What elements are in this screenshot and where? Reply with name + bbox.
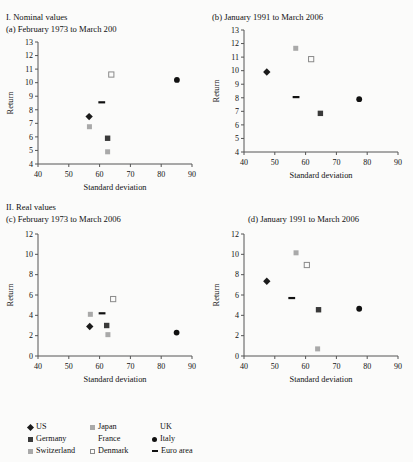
legend-label: Japan [98, 422, 117, 432]
x-tick-label: 90 [188, 362, 196, 371]
section-heading-nominal: I. Nominal values [6, 12, 67, 22]
plot-canvas-d: 024681012405060708090Standard deviationR… [210, 226, 406, 386]
y-tick-label: 6 [235, 121, 239, 130]
x-tick-label: 60 [96, 170, 104, 179]
data-point-italy [356, 96, 362, 102]
data-point-germany [316, 307, 321, 312]
x-tick-label: 90 [188, 170, 196, 179]
legend-marker-square-light-icon [90, 425, 95, 430]
data-point-us [86, 323, 93, 330]
panel-title-d: (d) January 1991 to March 2006 [248, 214, 359, 224]
y-tick-label: 6 [29, 291, 33, 300]
legend-label: UK [160, 422, 172, 432]
data-point-switzerland [105, 332, 110, 337]
data-point-italy [174, 330, 180, 336]
legend-label: Italy [160, 434, 175, 444]
legend-marker-square-light-icon [28, 449, 33, 454]
y-tick-label: 7 [29, 119, 33, 128]
x-tick-label: 80 [157, 362, 165, 371]
x-tick-label: 50 [65, 362, 73, 371]
legend-label: Denmark [98, 446, 128, 456]
y-tick-label: 6 [235, 291, 239, 300]
data-point-italy [356, 306, 362, 312]
y-tick-label: 4 [235, 311, 239, 320]
legend-label: US [36, 422, 46, 432]
data-point-denmark [309, 57, 314, 62]
scatter-plot-a: 45678910111213405060708090Standard devia… [4, 34, 200, 194]
y-tick-label: 10 [25, 250, 33, 259]
data-point-euro-area [99, 312, 106, 314]
y-tick-label: 0 [235, 352, 239, 361]
y-tick-label: 7 [235, 107, 239, 116]
axes-d [244, 234, 398, 356]
panel-title-b: (b) January 1991 to March 2006 [212, 12, 323, 22]
legend-item-france: France [90, 434, 152, 444]
x-tick-label: 40 [34, 170, 42, 179]
data-point-denmark [304, 262, 309, 267]
legend-label: Germany [36, 434, 66, 444]
x-tick-label: 80 [157, 170, 165, 179]
legend-marker-square-open-icon [90, 449, 95, 454]
y-tick-label: 4 [235, 148, 239, 157]
axes-c [38, 234, 192, 356]
data-point-us [263, 278, 270, 285]
plot-canvas-b: 45678910111213405060708090Standard devia… [210, 22, 406, 182]
scatter-plot-c: 024681012405060708090Standard deviationR… [4, 226, 200, 386]
legend-item-us: US [28, 422, 90, 432]
y-tick-label: 9 [235, 80, 239, 89]
data-point-denmark [109, 72, 114, 77]
scatter-plot-b: 45678910111213405060708090Standard devia… [210, 22, 406, 182]
y-tick-label: 5 [29, 146, 33, 155]
y-axis-label: Return [212, 79, 221, 103]
y-tick-label: 4 [29, 160, 33, 169]
legend-item-euro-area: Euro area [152, 446, 220, 456]
legend-item-denmark: Denmark [90, 446, 152, 456]
data-point-switzerland [105, 149, 110, 154]
x-tick-label: 70 [126, 170, 134, 179]
x-tick-label: 90 [394, 362, 402, 371]
legend-marker-square-dark-icon [28, 437, 33, 442]
y-tick-label: 9 [29, 92, 33, 101]
data-point-us [85, 113, 92, 120]
y-tick-label: 10 [231, 66, 239, 75]
data-point-italy [174, 77, 180, 83]
x-tick-label: 70 [332, 158, 340, 167]
ticks-b: 45678910111213405060708090 [231, 26, 402, 167]
y-tick-label: 0 [29, 352, 33, 361]
data-point-denmark [111, 296, 116, 301]
data-points-b [263, 46, 362, 116]
data-point-japan [87, 124, 92, 129]
x-tick-label: 40 [34, 362, 42, 371]
legend-label: Switzerland [36, 446, 75, 456]
x-tick-label: 80 [363, 158, 371, 167]
legend: USJapanUKGermanyFranceItalySwitzerlandDe… [28, 421, 220, 457]
x-tick-label: 70 [126, 362, 134, 371]
legend-item-germany: Germany [28, 434, 90, 444]
y-tick-label: 13 [25, 38, 33, 47]
data-point-germany [318, 111, 323, 116]
section-heading-real: II. Real values [6, 202, 56, 212]
x-tick-label: 90 [394, 158, 402, 167]
y-axis-label: Return [6, 91, 15, 115]
data-points-a [85, 72, 179, 154]
panel-title-a: (a) February 1973 to March 200 [6, 24, 117, 34]
data-point-euro-area [98, 101, 105, 103]
legend-label: Euro area [161, 446, 193, 456]
x-tick-label: 70 [332, 362, 340, 371]
panel-title-c: (c) February 1973 to March 2006 [6, 214, 121, 224]
data-points-d [263, 250, 362, 351]
data-point-euro-area [293, 96, 300, 98]
scatter-plot-d: 024681012405060708090Standard deviationR… [210, 226, 406, 386]
x-axis-label: Standard deviation [83, 375, 147, 384]
y-tick-label: 8 [29, 106, 33, 115]
legend-item-uk: UK [152, 422, 220, 432]
x-axis-label: Standard deviation [289, 375, 353, 384]
y-tick-label: 12 [231, 39, 239, 48]
y-tick-label: 10 [231, 250, 239, 259]
legend-label: France [98, 434, 120, 444]
y-tick-label: 8 [235, 270, 239, 279]
y-tick-label: 12 [25, 230, 33, 239]
data-point-us [263, 68, 270, 75]
y-tick-label: 2 [29, 331, 33, 340]
x-axis-label: Standard deviation [83, 183, 147, 192]
